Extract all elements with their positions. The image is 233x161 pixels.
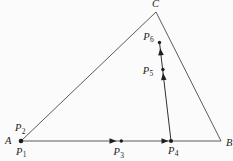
dot-p3 [120, 139, 123, 142]
dot-p5 [161, 68, 164, 71]
dot-p1 [19, 139, 24, 144]
triangle-diagram: ABCP1P2P3P4P5P6 [0, 0, 233, 161]
dot-p6 [158, 41, 161, 44]
paper-background [0, 0, 233, 161]
triangle-path-figure: ABCP1P2P3P4P5P6 [0, 0, 233, 161]
vertex-label-a: A [4, 135, 12, 146]
vertex-label-c: C [152, 0, 160, 9]
dot-p4 [169, 139, 173, 143]
vertex-label-b: B [226, 137, 233, 148]
